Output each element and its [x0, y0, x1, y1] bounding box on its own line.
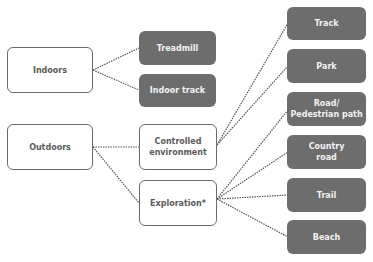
node-label: Indoor track [150, 85, 205, 96]
node-label: Track [315, 18, 339, 29]
node-label: Trail [317, 190, 336, 201]
node-label: Road/ Pedestrian path [290, 98, 362, 120]
node-outdoors: Outdoors [7, 124, 93, 170]
node-indoor-track: Indoor track [139, 74, 216, 107]
node-controlled-environment: Controlled environment [139, 124, 217, 170]
node-track: Track [287, 7, 366, 40]
node-trail: Trail [287, 178, 366, 212]
connector-controlled-environment-park [217, 66, 288, 145]
connector-exploration-trail [217, 195, 288, 199]
node-label: Park [316, 61, 336, 72]
node-park: Park [287, 49, 366, 83]
node-exploration: Exploration* [139, 180, 217, 226]
connector-controlled-environment-track [217, 23, 288, 145]
node-treadmill: Treadmill [139, 31, 216, 65]
figure-caption [112, 256, 272, 262]
node-label: Indoors [33, 65, 67, 76]
connector-indoors-indoor-track [93, 70, 139, 90]
connector-exploration-road [217, 110, 288, 199]
node-label: Controlled environment [149, 136, 207, 158]
node-label: Treadmill [157, 43, 199, 54]
connector-exploration-beach [217, 199, 288, 237]
connector-indoors-treadmill [93, 48, 139, 70]
node-label: Country road [309, 141, 345, 163]
node-label: Beach [313, 232, 340, 243]
node-road: Road/ Pedestrian path [287, 92, 366, 126]
node-beach: Beach [287, 220, 366, 254]
connector-exploration-country-road [217, 152, 288, 199]
node-label: Exploration* [150, 198, 206, 209]
node-indoors: Indoors [7, 47, 93, 93]
diagram-canvas: IndoorsOutdoorsTreadmillIndoor trackCont… [0, 0, 373, 262]
node-country-road: Country road [287, 135, 366, 169]
node-label: Outdoors [29, 142, 71, 153]
connector-outdoors-exploration [93, 147, 139, 203]
